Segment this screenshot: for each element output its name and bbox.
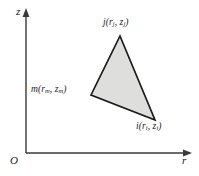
node-label-i: i(ri, zi) [136,122,161,132]
figure-canvas: z r O j(rj, zj) m(rm, zm) i(ri, zi) [0,0,199,176]
close-paren-i: ) [158,121,161,131]
node-label-m: m(rm, zm) [31,85,66,95]
triangular-element-shape [91,36,155,120]
diagram-svg [0,0,199,176]
node-letter-m: m [31,84,38,94]
z-axis-arrowhead [23,8,30,17]
origin-label: O [10,155,18,166]
r-axis-label: r [182,155,186,166]
z-axis-label: z [16,6,20,17]
close-paren-j: ) [125,17,128,27]
node-label-j: j(rj, zj) [103,18,128,28]
close-paren-m: ) [63,84,66,94]
